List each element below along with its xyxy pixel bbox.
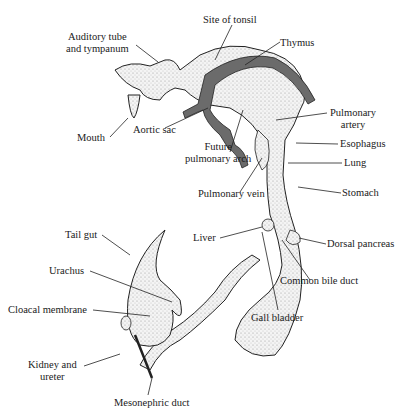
label-mesonephric-duct: Mesonephric duct (114, 397, 190, 409)
label-future-pulmonary-arch: Future pulmonary arch (185, 141, 251, 165)
label-auditory-tube: Auditory tube and tympanum (66, 31, 129, 55)
label-pulmonary-vein: Pulmonary vein (198, 188, 265, 200)
label-thymus: Thymus (280, 37, 314, 49)
label-kidney-ureter: Kidney and ureter (28, 359, 77, 383)
label-gall-bladder: Gall bladder (251, 312, 303, 324)
label-dorsal-pancreas: Dorsal pancreas (327, 238, 394, 250)
label-cloacal-membrane: Cloacal membrane (8, 304, 87, 316)
label-urachus: Urachus (49, 265, 84, 277)
label-site-of-tonsil: Site of tonsil (203, 14, 257, 26)
label-common-bile-duct: Common bile duct (280, 275, 358, 287)
label-lung: Lung (344, 157, 366, 169)
label-tail-gut: Tail gut (65, 229, 97, 241)
label-mouth: Mouth (77, 132, 105, 144)
label-aortic-sac: Aortic sac (133, 124, 176, 136)
label-esophagus: Esophagus (340, 138, 386, 150)
gut-drawing (0, 0, 406, 415)
kidney-shape (121, 316, 131, 330)
label-pulmonary-artery: Pulmonary artery (330, 107, 376, 131)
gut-diagram: Auditory tube and tympanum Site of tonsi… (0, 0, 406, 415)
label-liver: Liver (193, 232, 216, 244)
label-stomach: Stomach (342, 187, 379, 199)
mouth-shape (128, 95, 140, 118)
liver-shape (262, 219, 274, 231)
